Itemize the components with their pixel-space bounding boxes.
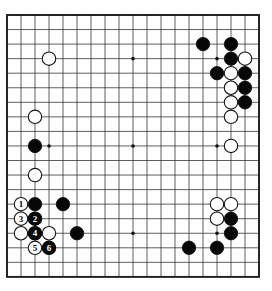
move-number-5: 5 [33, 243, 38, 253]
move-number-4: 4 [33, 228, 38, 238]
star-point [131, 144, 135, 148]
black-stone [224, 212, 237, 225]
white-stone [14, 227, 27, 240]
diagram-page: 123456 [0, 0, 272, 291]
white-stone [210, 212, 223, 225]
white-stone [42, 227, 55, 240]
white-stone [28, 168, 41, 181]
white-stone [238, 52, 251, 65]
black-stone [210, 67, 223, 80]
black-stone [224, 37, 237, 50]
white-stone [224, 197, 237, 210]
white-stone [224, 67, 237, 80]
go-board: 123456 [0, 0, 272, 291]
white-stone [28, 110, 41, 123]
star-point [215, 231, 219, 235]
black-stone [196, 37, 209, 50]
white-stone [224, 110, 237, 123]
black-stone [238, 81, 251, 94]
black-stone [70, 227, 83, 240]
move-number-2: 2 [33, 214, 38, 224]
star-point [47, 144, 51, 148]
black-stone [224, 227, 237, 240]
move-number-6: 6 [47, 243, 52, 253]
white-stone [224, 96, 237, 109]
white-stone [42, 52, 55, 65]
move-number-1: 1 [19, 199, 24, 209]
black-stone [224, 52, 237, 65]
move-number-3: 3 [19, 214, 24, 224]
white-stone [224, 139, 237, 152]
black-stone [28, 139, 41, 152]
black-stone [56, 197, 69, 210]
star-point [131, 57, 135, 61]
black-stone [210, 241, 223, 254]
white-stone [224, 81, 237, 94]
white-stone [210, 197, 223, 210]
black-stone [182, 241, 195, 254]
star-point [215, 144, 219, 148]
black-stone [238, 67, 251, 80]
star-point [215, 57, 219, 61]
star-point [131, 231, 135, 235]
black-stone [238, 96, 251, 109]
black-stone [28, 197, 41, 210]
